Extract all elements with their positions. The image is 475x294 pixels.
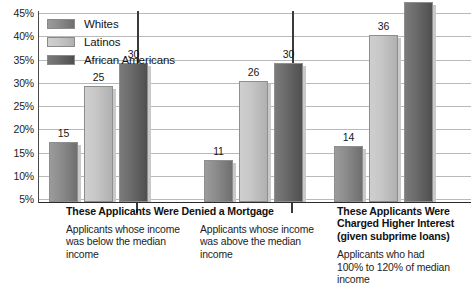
caption-heading-interest-line2: Charged Higher Interest <box>337 217 475 229</box>
bar-chart: 45% 40% 35% 30% 25% 20% 15% 10% 5% 15 <box>0 0 475 294</box>
bar-body <box>369 35 398 202</box>
caption-above-median-line3: income <box>200 249 325 261</box>
caption-below-median-line3: income <box>66 249 191 261</box>
bar-african-americans-below-median: 30 <box>119 63 151 203</box>
caption-above-median-line2: was above the median <box>200 236 325 248</box>
bar-body <box>49 142 78 202</box>
caption-sub-above-median: Applicants whose income was above the me… <box>200 224 325 261</box>
bar-african-americans-higher-interest: 43 <box>404 2 436 202</box>
bar-body <box>239 81 268 202</box>
caption-below-median-line2: was below the median <box>66 236 191 248</box>
legend-item-african-americans: African Americans <box>47 52 175 68</box>
legend-label-african-americans: African Americans <box>84 54 175 66</box>
legend-item-latinos: Latinos <box>47 34 175 50</box>
y-tick-40: 40% <box>14 30 34 42</box>
bar-african-americans-above-median: 30 <box>274 63 306 203</box>
bar-value-label: 14 <box>334 131 363 143</box>
caption-area: These Applicants Were Denied a Mortgage … <box>0 205 475 294</box>
bar-shadow <box>148 66 151 203</box>
legend: Whites Latinos African Americans <box>47 16 175 70</box>
bar-shadow <box>433 5 436 202</box>
legend-swatch-latinos <box>47 37 75 47</box>
bar-latinos-above-median: 26 <box>239 81 271 202</box>
legend-label-latinos: Latinos <box>84 36 120 48</box>
caption-interest-sub-line2: 100% to 120% of median <box>337 262 475 274</box>
bar-shadow <box>398 38 401 202</box>
bar-body <box>84 86 113 202</box>
caption-above-median-line1: Applicants whose income <box>200 224 325 236</box>
legend-item-whites: Whites <box>47 16 175 32</box>
caption-group-higher-interest: These Applicants Were Charged Higher Int… <box>337 205 475 286</box>
y-tick-35: 35% <box>14 54 34 66</box>
caption-sub-below-median: Applicants whose income was below the me… <box>66 224 191 261</box>
bar-body <box>334 146 363 202</box>
caption-interest-sub-line1: Applicants who had <box>337 249 475 261</box>
bar-shadow <box>78 145 81 202</box>
caption-heading-interest-line1: These Applicants Were <box>337 205 475 217</box>
bar-shadow <box>363 149 366 202</box>
bar-value-label: 30 <box>274 48 303 60</box>
bar-shadow <box>268 84 271 202</box>
y-tick-30: 30% <box>14 77 34 89</box>
bar-body <box>404 2 433 202</box>
bar-value-label: 26 <box>239 66 268 78</box>
caption-below-median-line1: Applicants whose income <box>66 224 191 236</box>
bar-shadow <box>113 89 116 202</box>
bar-shadow <box>233 163 236 202</box>
caption-divider <box>291 203 293 213</box>
bar-value-label: 15 <box>49 127 78 139</box>
caption-heading-interest-line3: (given subprime loans) <box>337 230 475 242</box>
legend-swatch-african-americans <box>47 55 75 65</box>
y-tick-10: 10% <box>14 170 34 182</box>
bar-whites-below-median: 15 <box>49 142 81 202</box>
y-tick-25: 25% <box>14 100 34 112</box>
bar-shadow <box>303 66 306 203</box>
bar-body <box>274 63 303 203</box>
y-tick-15: 15% <box>14 147 34 159</box>
legend-swatch-whites <box>47 19 75 29</box>
y-tick-5: 5% <box>19 193 34 205</box>
bar-whites-above-median: 11 <box>204 160 236 202</box>
legend-label-whites: Whites <box>84 18 119 30</box>
y-tick-45: 45% <box>14 7 34 19</box>
y-tick-20: 20% <box>14 123 34 135</box>
bar-value-label: 36 <box>369 20 398 32</box>
bar-body <box>119 63 148 203</box>
bar-whites-higher-interest: 14 <box>334 146 366 202</box>
bar-latinos-higher-interest: 36 <box>369 35 401 202</box>
bar-value-label: 25 <box>84 71 113 83</box>
caption-heading-denied: These Applicants Were Denied a Mortgage <box>66 205 286 217</box>
caption-interest-sub-line3: income <box>337 274 475 286</box>
caption-group-denied: These Applicants Were Denied a Mortgage <box>66 205 286 217</box>
plot-area: 15 25 30 11 26 30 <box>38 11 471 203</box>
bar-value-label: 11 <box>204 145 233 157</box>
bar-body <box>204 160 233 202</box>
bar-latinos-below-median: 25 <box>84 86 116 202</box>
